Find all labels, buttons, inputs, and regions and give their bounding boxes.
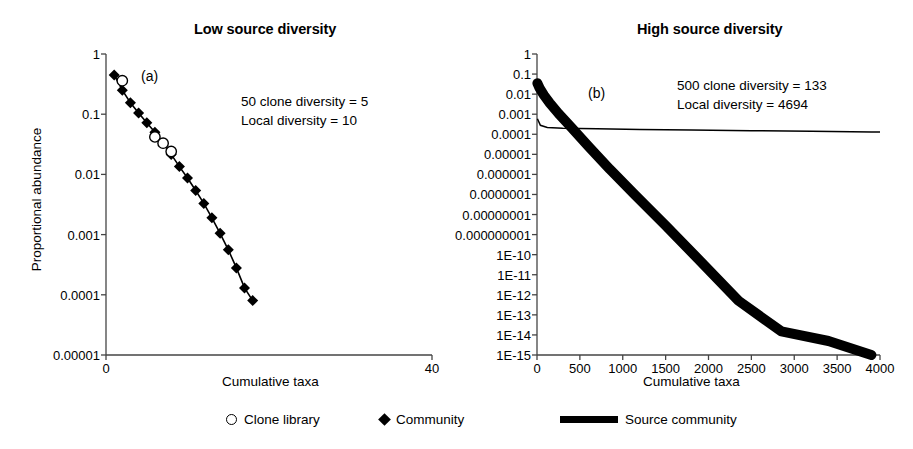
legend-item-community: Community <box>380 412 464 427</box>
community-line <box>537 119 880 132</box>
open-circle-icon <box>226 414 237 425</box>
figure-root: Low source diversity Proportional abunda… <box>0 0 913 449</box>
legend-label-clone-library: Clone library <box>244 412 320 427</box>
filled-diamond-icon <box>378 413 391 426</box>
legend-label-community: Community <box>396 412 464 427</box>
legend-label-source-community: Source community <box>625 412 737 427</box>
source-community-band <box>537 83 871 355</box>
legend-item-clone-library: Clone library <box>226 412 320 427</box>
legend-item-source-community: Source community <box>560 412 737 427</box>
figure-legend: Clone library Community Source community <box>0 412 913 442</box>
panel-b-plot <box>0 0 913 449</box>
thick-line-icon <box>560 416 618 423</box>
